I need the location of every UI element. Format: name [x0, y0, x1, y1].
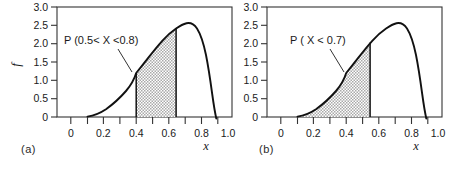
x-tick-label: 0 [68, 127, 74, 139]
x-axis-title: x [202, 139, 209, 153]
x-tick-label: 0 [278, 127, 284, 139]
panel-a-sublabel: (a) [21, 143, 36, 155]
panel-b-sublabel: (b) [259, 143, 274, 155]
x-tick-label: 0.6 [161, 127, 176, 139]
y-tick-label: 1.5 [33, 56, 48, 68]
x-tick-label: 1.0 [221, 127, 236, 139]
x-tick-label: 0.2 [96, 127, 111, 139]
panel-b: 0 0.5 1.0 1.5 2.0 2.5 3.0 f [238, 0, 475, 169]
x-axis-ticks [71, 117, 218, 124]
y-tick-label: 3.0 [243, 1, 258, 13]
panel-a: 0 0.5 1.0 1.5 2.0 2.5 3.0 f [0, 0, 237, 169]
y-tick-labels: 0 0.5 1.0 1.5 2.0 2.5 3.0 [243, 1, 258, 123]
x-tick-label: 0.2 [306, 127, 321, 139]
y-tick-label: 2.0 [33, 37, 48, 49]
y-tick-label: 0 [42, 111, 48, 123]
x-tick-label: 0.8 [194, 127, 209, 139]
x-tick-label: 0.4 [339, 127, 354, 139]
y-tick-label: 0.5 [243, 92, 258, 104]
x-tick-labels: 0 0.2 0.4 0.6 0.8 1.0 [68, 127, 236, 139]
probability-annotation: P (0.5< X <0.8) [64, 34, 138, 46]
x-tick-labels: 0 0.2 0.4 0.6 0.8 1.0 [278, 127, 446, 139]
y-tick-label: 3.0 [33, 1, 48, 13]
x-tick-label: 1.0 [431, 127, 446, 139]
y-tick-label: 2.0 [243, 37, 258, 49]
y-tick-label: 0 [252, 111, 258, 123]
y-tick-label: 2.5 [243, 19, 258, 31]
figure-container: 0 0.5 1.0 1.5 2.0 2.5 3.0 f [0, 0, 475, 169]
y-tick-label: 2.5 [33, 19, 48, 31]
y-tick-label: 1.0 [243, 74, 258, 86]
y-axis-ticks [51, 7, 57, 117]
y-axis-ticks [261, 7, 267, 117]
x-tick-label: 0.6 [371, 127, 386, 139]
x-axis-ticks [281, 117, 428, 124]
x-axis-title: x [412, 139, 419, 153]
y-axis-title: f [8, 61, 23, 67]
x-tick-label: 0.4 [129, 127, 144, 139]
y-tick-label: 0.5 [33, 92, 48, 104]
y-tick-label: 1.0 [33, 74, 48, 86]
y-tick-label: 1.5 [243, 56, 258, 68]
probability-annotation: P ( X < 0.7) [290, 34, 346, 46]
x-tick-label: 0.8 [404, 127, 419, 139]
y-tick-labels: 0 0.5 1.0 1.5 2.0 2.5 3.0 [33, 1, 48, 123]
